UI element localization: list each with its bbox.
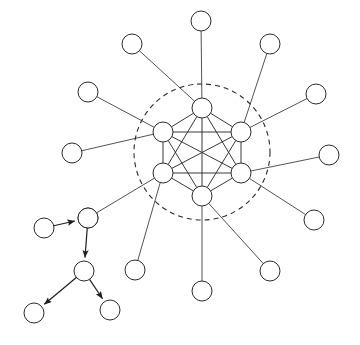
graph-node-periphery[interactable] <box>260 261 280 281</box>
graph-node-periphery[interactable] <box>62 143 82 163</box>
spoke-edge <box>97 178 155 213</box>
network-graph-canvas <box>0 0 360 345</box>
directed-branch-edge <box>54 221 75 226</box>
graph-node-core[interactable] <box>231 122 251 142</box>
graph-node-periphery[interactable] <box>122 34 142 54</box>
core-edge-layer <box>163 113 241 191</box>
spoke-edge <box>138 183 160 261</box>
spoke-edge <box>97 97 154 128</box>
core-edge <box>172 113 194 127</box>
graph-node-branch[interactable] <box>78 208 98 228</box>
network-diagram <box>0 0 360 345</box>
graph-node-periphery[interactable] <box>78 82 98 102</box>
spoke-edge <box>244 53 267 122</box>
spoke-edge <box>250 99 307 128</box>
graph-node-periphery[interactable] <box>125 260 145 280</box>
core-edge <box>172 178 194 191</box>
core-edge <box>211 178 233 191</box>
graph-node-branch[interactable] <box>24 303 44 323</box>
spoke-edge <box>201 31 202 98</box>
graph-node-branch[interactable] <box>34 218 54 238</box>
spoke-edge <box>209 203 264 263</box>
branch-edge-layer <box>44 221 102 304</box>
graph-node-core[interactable] <box>153 163 173 183</box>
graph-node-core[interactable] <box>231 163 251 183</box>
graph-node-core[interactable] <box>153 122 173 142</box>
directed-branch-edge <box>85 228 87 258</box>
directed-branch-edge <box>44 277 76 304</box>
graph-node-core[interactable] <box>192 98 212 118</box>
graph-node-periphery[interactable] <box>304 210 324 230</box>
graph-node-periphery[interactable] <box>306 84 326 104</box>
graph-node-periphery[interactable] <box>191 11 211 31</box>
graph-node-periphery[interactable] <box>319 145 339 165</box>
spoke-edge <box>82 134 154 151</box>
core-edge <box>211 113 233 127</box>
directed-branch-edge <box>90 279 103 298</box>
node-layer <box>24 11 339 323</box>
spoke-edge <box>251 157 319 171</box>
graph-node-branch[interactable] <box>74 261 94 281</box>
spoke-edge <box>249 178 305 214</box>
graph-node-periphery[interactable] <box>260 34 280 54</box>
graph-node-branch[interactable] <box>100 300 120 320</box>
graph-node-periphery[interactable] <box>192 281 212 301</box>
graph-node-core[interactable] <box>192 186 212 206</box>
spoke-edge-layer <box>82 31 319 281</box>
